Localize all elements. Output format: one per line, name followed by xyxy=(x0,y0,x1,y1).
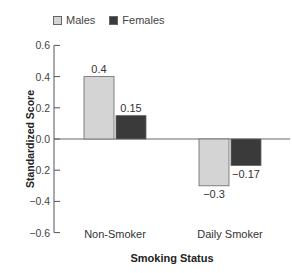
bar-females-daily-smoker xyxy=(231,139,261,166)
bar-males-non-smoker xyxy=(84,77,114,139)
bar-value-label: −0.17 xyxy=(232,168,260,180)
y-tick-label: 0.2 xyxy=(35,102,50,114)
y-tick-label: 0.4 xyxy=(35,71,50,83)
y-tick-label: −0.6 xyxy=(29,227,50,239)
bar-males-daily-smoker xyxy=(199,139,229,186)
y-tick-label: 0.6 xyxy=(35,39,50,51)
bar-chart: 0.60.40.20.0−0.2−0.4−0.60.40.15Non-Smoke… xyxy=(0,0,292,273)
y-tick-label: 0.0 xyxy=(35,133,50,145)
bar-value-label: 0.15 xyxy=(120,102,141,114)
bar-females-non-smoker xyxy=(116,116,146,139)
bar-value-label: −0.3 xyxy=(203,188,225,200)
x-category-label: Non-Smoker xyxy=(84,228,146,240)
y-tick-label: −0.2 xyxy=(29,164,50,176)
y-tick-label: −0.4 xyxy=(29,195,50,207)
x-category-label: Daily Smoker xyxy=(197,228,263,240)
bar-value-label: 0.4 xyxy=(91,63,106,75)
